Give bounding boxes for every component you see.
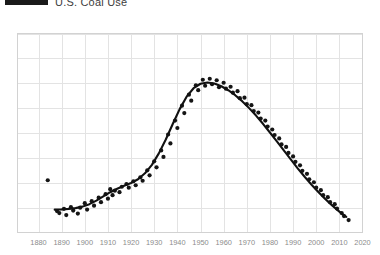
scatter-point: [76, 211, 80, 215]
scatter-point: [256, 111, 260, 115]
x-axis-tick-labels: 1880189019001910192019301940195019601970…: [30, 238, 370, 247]
scatter-point: [147, 173, 151, 177]
x-tick-label: 1900: [77, 238, 93, 247]
scatter-point: [228, 85, 232, 89]
scatter-point: [208, 77, 212, 81]
scatter-point: [154, 165, 158, 169]
scatter-point: [263, 118, 267, 122]
scatter-point: [235, 89, 239, 93]
scatter-point: [99, 200, 103, 204]
scatter-point: [134, 183, 138, 187]
scatter-point: [189, 99, 193, 103]
x-tick-label: 1880: [30, 238, 46, 247]
x-tick-label: 1980: [262, 238, 278, 247]
scatter-point: [196, 88, 200, 92]
x-tick-label: 1970: [239, 238, 255, 247]
x-tick-label: 1960: [215, 238, 231, 247]
scatter-point: [277, 136, 281, 140]
scatter-point: [168, 141, 172, 145]
scatter-point: [347, 218, 351, 222]
scatter-point: [85, 208, 89, 212]
scatter-points: [46, 77, 351, 222]
scatter-point: [57, 211, 61, 215]
scatter-point: [305, 172, 309, 176]
scatter-point: [92, 204, 96, 208]
scatter-point: [161, 155, 165, 159]
grid-lines: [18, 34, 363, 233]
scatter-point: [215, 78, 219, 82]
x-tick-label: 1940: [169, 238, 185, 247]
scatter-point: [127, 186, 131, 190]
scatter-point: [249, 103, 253, 107]
scatter-point: [242, 96, 246, 100]
scatter-point: [182, 111, 186, 115]
scatter-point: [222, 81, 226, 85]
scatter-point: [110, 193, 114, 197]
x-tick-label: 2000: [308, 238, 324, 247]
plot-area: 1880189019001910192019301940195019601970…: [0, 0, 380, 255]
scatter-point: [203, 84, 207, 88]
scatter-point: [201, 78, 205, 82]
scatter-point: [312, 180, 316, 184]
scatter-point: [106, 197, 110, 201]
scatter-point: [270, 127, 274, 131]
scatter-point: [298, 163, 302, 167]
scatter-point: [64, 213, 68, 217]
x-tick-label: 1920: [123, 238, 139, 247]
x-tick-label: 1990: [285, 238, 301, 247]
scatter-point: [117, 190, 121, 194]
x-tick-label: 2010: [331, 238, 347, 247]
scatter-point: [291, 154, 295, 158]
x-tick-label: 1930: [146, 238, 162, 247]
chart-container: U.S. Coal Use 18801890190019101920193019…: [0, 0, 380, 255]
scatter-point: [284, 145, 288, 149]
scatter-point: [141, 179, 145, 183]
scatter-point: [175, 126, 179, 130]
x-tick-label: 1890: [53, 238, 69, 247]
x-tick-label: 1950: [192, 238, 208, 247]
x-tick-label: 1910: [100, 238, 116, 247]
scatter-point: [46, 178, 50, 182]
x-tick-label: 2020: [354, 238, 370, 247]
